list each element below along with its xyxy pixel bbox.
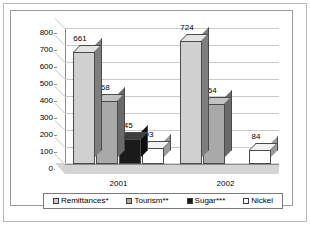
x-axis-label-2002: 2002 (211, 179, 241, 189)
legend-swatch-sugar (187, 198, 193, 204)
y-axis-tick-label-800: 800 (25, 29, 53, 37)
x-axis-labels: 20012002 (55, 179, 279, 191)
bar-front-face (249, 150, 271, 164)
bars-container (65, 28, 279, 164)
y-axis-tick-label-200: 200 (25, 131, 53, 139)
legend-label-text: Tourism** (134, 197, 168, 205)
y-axis-tick-label-100: 100 (25, 148, 53, 156)
data-label-remittances-2002: 724 (177, 24, 197, 32)
bar-front-face (180, 41, 202, 164)
bar-nickel-2002 (249, 150, 271, 164)
x-axis-label-2001: 2001 (104, 179, 134, 189)
y-axis-tick-label-0: 0 (25, 165, 53, 173)
legend-item-remittances[interactable]: Remittances* (53, 197, 109, 205)
legend-swatch-remittances (53, 198, 59, 204)
legend-swatch-tourism (126, 198, 132, 204)
legend-label-text: Nickel (251, 197, 273, 205)
chart-legend: Remittances*Tourism**Sugar***Nickel (43, 193, 283, 209)
bar-side-face (202, 27, 209, 157)
y-axis-tick-label-300: 300 (25, 114, 53, 122)
chart-floor-corner (55, 163, 65, 174)
legend-item-nickel[interactable]: Nickel (243, 197, 273, 205)
y-axis-labels: 0100200300400500600700800 (25, 21, 53, 171)
legend-label-text: Sugar*** (195, 197, 226, 205)
legend-label-text: Remittances* (61, 197, 109, 205)
data-label-remittances-2001: 661 (70, 35, 90, 43)
y-axis-tick-label-500: 500 (25, 80, 53, 88)
gridline-0 (65, 164, 279, 165)
bar-remittances-2002 (180, 41, 202, 164)
data-label-nickel-2002: 84 (246, 133, 266, 141)
y-axis-tick-label-600: 600 (25, 63, 53, 71)
bar-side-face (95, 38, 102, 157)
bar-front-face (73, 52, 95, 164)
bar-remittances-2001 (73, 52, 95, 164)
y-axis-tick-label-400: 400 (25, 97, 53, 105)
legend-item-sugar[interactable]: Sugar*** (187, 197, 226, 205)
legend-item-tourism[interactable]: Tourism** (126, 197, 168, 205)
chart-frame: 0100200300400500600700800 66136814593724… (10, 10, 293, 206)
y-axis-tick-label-700: 700 (25, 46, 53, 54)
chart-screenshot: 0100200300400500600700800 66136814593724… (0, 0, 310, 225)
plot-area: 6613681459372435484 (55, 28, 279, 174)
legend-swatch-nickel (243, 198, 249, 204)
